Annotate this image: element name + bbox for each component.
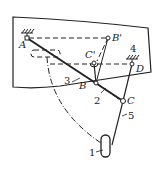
label-a: A xyxy=(18,39,26,50)
link-b-prime-b xyxy=(96,38,108,83)
label-part-2: 2 xyxy=(94,95,100,106)
label-part-3: 3 xyxy=(64,75,70,86)
label-part-4: 4 xyxy=(130,43,136,54)
label-c-prime: C' xyxy=(85,49,95,60)
joints xyxy=(25,36,134,104)
label-c: C xyxy=(127,95,135,106)
wheel-1 xyxy=(101,135,110,157)
link-c-prime-b xyxy=(94,63,96,83)
label-d: D xyxy=(135,63,144,74)
link-5 xyxy=(112,101,123,145)
label-part-5: 5 xyxy=(128,110,134,121)
label-part-1: 1 xyxy=(89,147,95,158)
label-b-prime: B' xyxy=(111,32,122,43)
label-b: B xyxy=(78,80,86,91)
mechanism-diagram: A B C D B' C' 1 2 3 4 5 xyxy=(0,0,161,169)
